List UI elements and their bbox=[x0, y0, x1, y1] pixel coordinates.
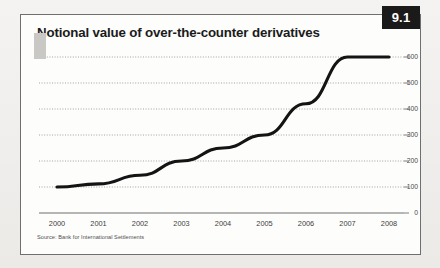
gridline-group bbox=[39, 57, 404, 187]
x-axis-tick-label: 2008 bbox=[381, 219, 397, 228]
x-axis-tick-label: 2001 bbox=[90, 219, 106, 228]
line-chart-svg: 0100200300400500600 20002001200220032004… bbox=[21, 15, 422, 256]
y-axis-tick-label: 0 bbox=[414, 209, 418, 216]
figure-source-note: Source: Bank for International Settlemen… bbox=[37, 234, 144, 240]
corner-accent-tab bbox=[34, 33, 46, 59]
x-axis-tick-label: 2003 bbox=[173, 219, 189, 228]
data-series-line bbox=[57, 57, 389, 187]
x-axis-tick-label: 2006 bbox=[298, 219, 314, 228]
x-axis-tick-label: 2000 bbox=[49, 219, 65, 228]
x-axis-tick-label: 2007 bbox=[339, 219, 355, 228]
x-axis-tick-label: 2004 bbox=[215, 219, 231, 228]
chart-plot-area: 0100200300400500600 20002001200220032004… bbox=[21, 15, 422, 256]
figure-card: 9.1 Notional value of over-the-counter d… bbox=[20, 14, 421, 255]
x-axis-tick-label: 2002 bbox=[132, 219, 148, 228]
x-axis-tick-labels: 200020012002200320042005200620072008 bbox=[49, 219, 397, 228]
x-axis-tick-label: 2005 bbox=[256, 219, 272, 228]
